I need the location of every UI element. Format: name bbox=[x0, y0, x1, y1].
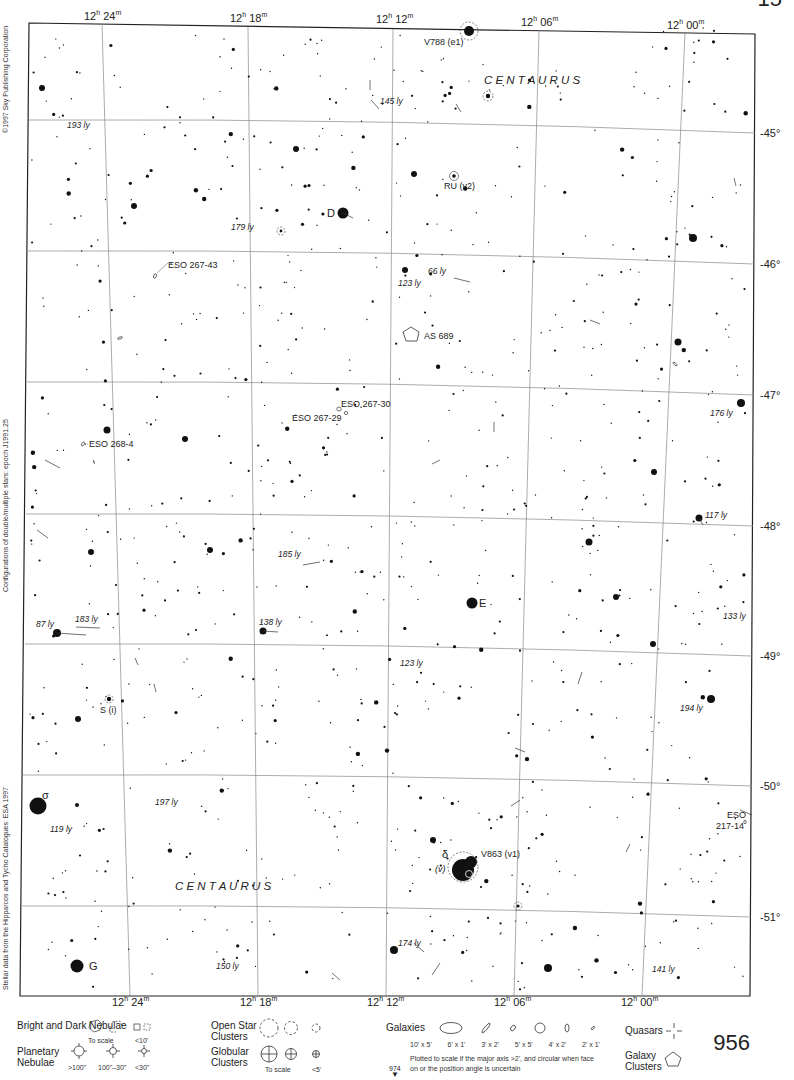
legend-galaxy-size-2: 6' x 1' bbox=[448, 1039, 466, 1050]
svg-text:123 ly: 123 ly bbox=[400, 658, 423, 668]
legend-galaxy-clusters-title: Galaxy Clusters bbox=[625, 1050, 665, 1072]
label-v863: V863 (v1) bbox=[481, 849, 520, 859]
arrow-down-icon: ▼ bbox=[389, 1072, 401, 1078]
svg-text:185 ly: 185 ly bbox=[278, 549, 301, 559]
legend-globular-title: Globular Clusters bbox=[211, 1046, 261, 1068]
constellation-label-top: C E N T A U R U S bbox=[484, 74, 581, 86]
svg-text:133 ly: 133 ly bbox=[723, 611, 746, 621]
label-as-689: AS 689 bbox=[424, 331, 454, 341]
legend-galaxy-size-3: 3' x 2' bbox=[481, 1039, 499, 1050]
label-eso-267-43: ESO 267-43 bbox=[168, 260, 218, 270]
label-ru: RU (v2) bbox=[444, 181, 475, 191]
label-eso-217-14-a: ESO bbox=[727, 810, 746, 820]
label-s: S (i) bbox=[100, 705, 117, 715]
legend-quasars-title: Quasars bbox=[625, 1025, 663, 1036]
svg-text:145 ly: 145 ly bbox=[380, 96, 403, 106]
variable-star-rings bbox=[105, 22, 522, 910]
label-eso-268-4: ESO 268-4 bbox=[89, 439, 134, 449]
svg-text:141 ly: 141 ly bbox=[652, 964, 675, 974]
svg-text:138 ly: 138 ly bbox=[259, 617, 282, 627]
legend-open-clusters-title: Open Star Clusters bbox=[211, 1020, 261, 1042]
proper-motion-vectors bbox=[37, 80, 752, 980]
label-sigma: σ bbox=[42, 789, 49, 801]
ra-gridlines bbox=[102, 24, 685, 996]
label-delta: δ bbox=[442, 848, 448, 860]
constellation-label-bottom: C E N T A U R U S bbox=[175, 880, 272, 892]
label-eso-217-14-b: 217-14 bbox=[716, 821, 744, 831]
quasar-symbol-icon bbox=[666, 1023, 682, 1039]
svg-text:179 ly: 179 ly bbox=[231, 222, 254, 232]
label-v788: V788 (e1) bbox=[424, 37, 464, 47]
legend-galaxy-size-5: 4' x 2' bbox=[548, 1039, 566, 1050]
svg-text:150 ly: 150 ly bbox=[216, 961, 239, 971]
svg-text:176 ly: 176 ly bbox=[710, 408, 733, 418]
object-labels: V788 (e1) RU (v2) D E S (i) σ δ (v) V863… bbox=[36, 37, 746, 974]
open-cluster-symbols-icon bbox=[258, 1016, 328, 1040]
svg-text:174 ly: 174 ly bbox=[398, 938, 421, 948]
legend-galaxy-size-1: 10' x 5' bbox=[410, 1039, 432, 1050]
svg-text:183 ly: 183 ly bbox=[75, 614, 98, 624]
svg-text:66 ly: 66 ly bbox=[428, 266, 447, 276]
star-chart: V788 (e1) RU (v2) D E S (i) σ δ (v) V863… bbox=[0, 0, 794, 1000]
legend-planetary-mid: 100"–30" bbox=[98, 1064, 126, 1071]
dec-gridlines bbox=[22, 120, 755, 917]
svg-text:87 ly: 87 ly bbox=[36, 619, 55, 629]
svg-text:119 ly: 119 ly bbox=[50, 824, 73, 834]
label-d: D bbox=[327, 207, 335, 219]
svg-text:123 ly: 123 ly bbox=[398, 278, 421, 288]
galaxy-symbols-icon bbox=[410, 1019, 600, 1037]
label-g: G bbox=[89, 960, 98, 972]
svg-text:117 ly: 117 ly bbox=[705, 510, 728, 520]
star-field-faint bbox=[29, 27, 748, 990]
label-v: (v) bbox=[435, 864, 446, 874]
page-number: 956 bbox=[713, 1030, 750, 1056]
label-eso-267-29: ESO 267-29 bbox=[292, 413, 342, 423]
galaxy-cluster-symbol-icon bbox=[663, 1050, 683, 1068]
svg-text:193 ly: 193 ly bbox=[67, 120, 90, 130]
variable-star-dots bbox=[107, 94, 520, 908]
legend-globular-scale: To scale bbox=[265, 1066, 291, 1073]
legend-galaxy-note: Plotted to scale if the major axis >2', … bbox=[410, 1055, 594, 1072]
label-eso-267-30: ESO 267-30 bbox=[341, 399, 391, 409]
svg-text:197 ly: 197 ly bbox=[155, 797, 178, 807]
legend-galaxy-size-4: 5' x 5' bbox=[515, 1039, 533, 1050]
svg-text:194 ly: 194 ly bbox=[680, 703, 703, 713]
adjacent-page-pointer: 974 ▼ bbox=[389, 1065, 401, 1078]
chart-frame bbox=[20, 23, 755, 996]
legend-globular-small: <5' bbox=[312, 1066, 321, 1073]
galaxy-cluster-as689 bbox=[403, 327, 419, 341]
legend-galaxy-size-6: 2' x 1' bbox=[582, 1039, 600, 1050]
legend-planetary-small: <30" bbox=[135, 1064, 149, 1071]
galaxy-symbols bbox=[81, 273, 747, 823]
planetary-nebula-symbols-icon bbox=[68, 1042, 158, 1060]
globular-cluster-symbols-icon bbox=[258, 1043, 328, 1065]
label-e: E bbox=[479, 597, 486, 609]
label-leaders bbox=[87, 263, 168, 444]
legend-planetary-large: >100" bbox=[68, 1064, 86, 1071]
